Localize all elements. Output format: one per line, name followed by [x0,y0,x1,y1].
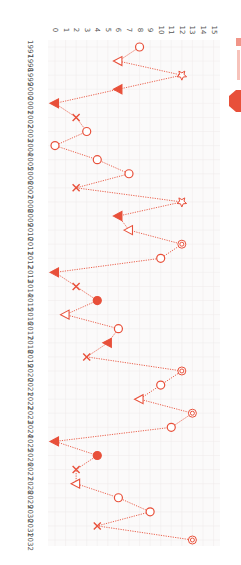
value-tick-label: 0 [51,28,59,32]
value-tick-label: 12 [178,26,186,35]
chart: 0123456789101112131415 19971998199920002… [0,0,241,565]
value-axis-ticks: 0123456789101112131415 [51,26,218,35]
value-tick-label: 7 [125,28,133,32]
value-tick-label: 15 [210,26,218,35]
value-tick-label: 11 [167,26,175,35]
data-point-circle-open [114,325,122,333]
value-tick-label: 8 [136,28,144,32]
value-tick-label: 9 [146,28,154,32]
legend-swatch [236,38,241,46]
data-point-circle-open [157,254,165,262]
value-tick-label: 2 [72,28,80,32]
data-point-circle-open [114,494,122,502]
legend-label [237,50,240,80]
data-point-target [188,536,196,544]
data-point-circle-open [167,423,175,431]
value-tick-label: 5 [104,28,112,32]
data-point-circle-open [125,170,133,178]
value-tick-label: 13 [188,26,196,35]
value-tick-label: 4 [93,28,101,33]
octagon-icon[interactable] [229,90,241,112]
data-point-circle-open [136,43,144,51]
data-point-target [188,409,196,417]
value-tick-label: 10 [157,26,165,35]
data-point-circle-filled [93,451,101,459]
year-axis-ticks: 1997199819992000200120022003200420052006… [26,40,34,551]
data-point-circle-open [93,156,101,164]
legend [229,38,241,112]
year-tick-label: 2032 [26,533,34,551]
value-tick-label: 14 [199,26,207,35]
value-tick-label: 6 [114,28,122,33]
value-tick-label: 3 [83,28,91,32]
data-point-circle-open [157,381,165,389]
data-point-target [178,367,186,375]
data-point-circle-open [83,128,91,136]
data-point-circle-open [51,142,59,150]
value-tick-label: 1 [62,28,70,32]
data-point-target [178,240,186,248]
data-point-circle-filled [93,297,101,305]
data-point-circle-open [146,508,154,516]
